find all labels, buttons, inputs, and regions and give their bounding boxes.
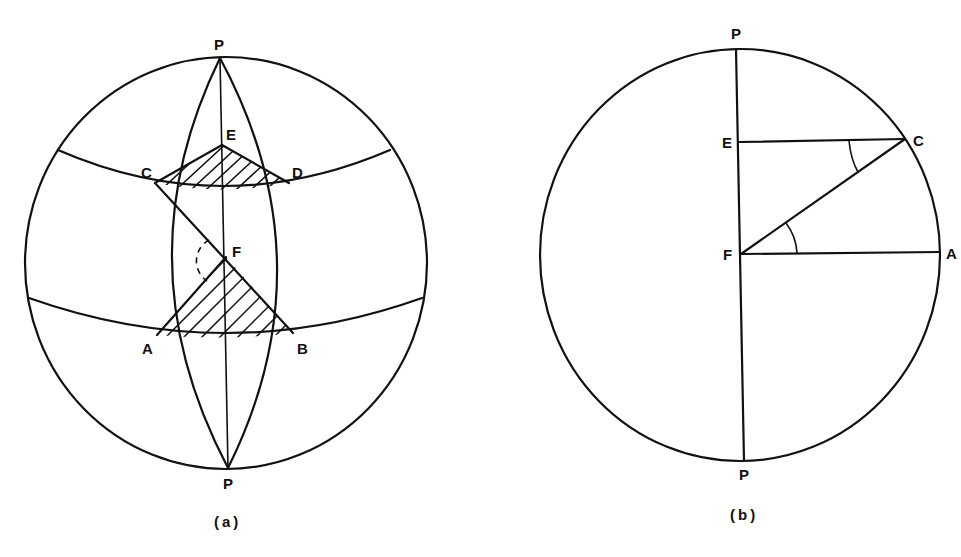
sphere-outline-a [25,57,427,469]
parallel-upper [58,150,390,186]
label-p-bottom-a: P [223,475,233,492]
edge-ed [222,145,289,183]
label-p-top-b: P [731,25,741,42]
label-p-bottom-b: P [739,466,749,483]
figure-a: P E C D F A B P (a) [25,36,427,530]
label-p-top-a: P [214,36,224,53]
label-a-a: A [142,340,153,357]
figure-b: P E C F A P (b) [540,25,957,523]
label-c-b: C [913,132,924,149]
radius-fc [741,139,905,254]
label-a-b: A [946,245,957,262]
label-d-a: D [292,164,303,181]
caption-a: (a) [214,513,241,530]
angle-arc-f [786,223,797,253]
angle-arc-c [849,141,858,172]
label-f-a: F [232,243,241,260]
chord-ec [739,139,905,142]
label-e-b: E [722,134,732,151]
label-c-a: C [141,164,152,181]
caption-b: (b) [730,506,758,523]
label-e-a: E [226,126,236,143]
angle-arc-f-dashed [196,240,209,281]
label-f-b: F [723,246,732,263]
chord-fa [741,252,940,254]
label-b-a: B [297,340,308,357]
